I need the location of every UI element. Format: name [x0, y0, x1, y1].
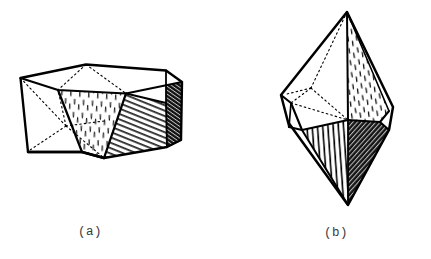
crystal-a: [21, 65, 183, 159]
crystal-figure-svg: [0, 0, 431, 259]
figure-root: (a) (b): [0, 0, 431, 259]
caption-a: (a): [78, 225, 102, 239]
caption-b: (b): [324, 226, 348, 240]
